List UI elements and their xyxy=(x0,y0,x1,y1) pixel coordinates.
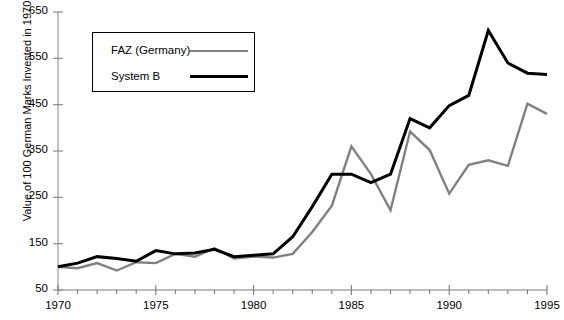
legend-swatch-system-b xyxy=(190,75,248,78)
legend-item-system-b: System B xyxy=(93,67,256,87)
legend-label-faz-germany: FAZ (Germany) xyxy=(111,44,190,56)
legend-label-system-b: System B xyxy=(111,70,160,82)
legend-swatch-faz-germany xyxy=(190,50,248,52)
x-tick-label: 1985 xyxy=(321,299,381,311)
legend: FAZ (Germany) System B xyxy=(92,32,255,92)
y-tick-label: 650 xyxy=(8,4,48,16)
x-tick-label: 1990 xyxy=(419,299,479,311)
y-tick-label: 450 xyxy=(8,97,48,109)
y-tick-label: 150 xyxy=(8,236,48,248)
x-tick-label: 1970 xyxy=(28,299,88,311)
legend-item-faz-germany: FAZ (Germany) xyxy=(93,41,256,61)
y-tick-label: 550 xyxy=(8,50,48,62)
x-tick-label: 1975 xyxy=(126,299,186,311)
x-tick-label: 1980 xyxy=(224,299,284,311)
series-line-faz-germany xyxy=(58,104,547,271)
y-axis-title: Value of 100 German Marks Invested in 19… xyxy=(21,0,35,251)
y-tick-label: 250 xyxy=(8,189,48,201)
y-tick-label: 50 xyxy=(8,282,48,294)
y-tick-label: 350 xyxy=(8,143,48,155)
x-tick-label: 1995 xyxy=(517,299,564,311)
